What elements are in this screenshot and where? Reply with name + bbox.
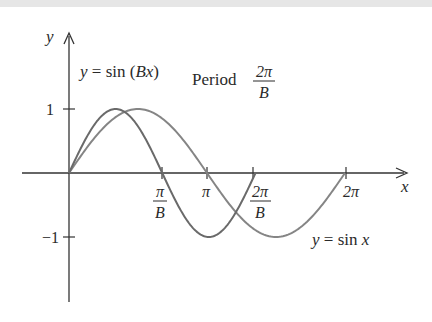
chart-svg: y x 1 −1 π B π 2π B 2π y = sin (Bx) Peri… xyxy=(0,0,432,322)
y-tick-label-1: 1 xyxy=(46,101,54,118)
x-tick-label-pi-over-b-num: π xyxy=(156,183,165,200)
label-sin-x: y = sin x xyxy=(310,230,370,249)
x-tick-label-pi-over-b-den: B xyxy=(155,204,165,221)
x-tick-label-2pi: 2π xyxy=(343,183,360,200)
x-tick-label-2pi-over-b-den: B xyxy=(255,204,265,221)
x-tick-label-2pi-over-b-num: 2π xyxy=(252,183,269,200)
chart-figure: y x 1 −1 π B π 2π B 2π y = sin (Bx) Peri… xyxy=(0,0,432,322)
label-sin-bx: y = sin (Bx) xyxy=(78,62,159,81)
period-denominator: B xyxy=(259,84,269,101)
period-numerator: 2π xyxy=(256,63,273,80)
period-word: Period xyxy=(192,70,237,89)
y-axis-label: y xyxy=(44,27,54,46)
y-tick-label-neg1: −1 xyxy=(42,229,59,246)
x-axis-label: x xyxy=(400,177,409,196)
x-tick-label-pi: π xyxy=(202,183,211,200)
